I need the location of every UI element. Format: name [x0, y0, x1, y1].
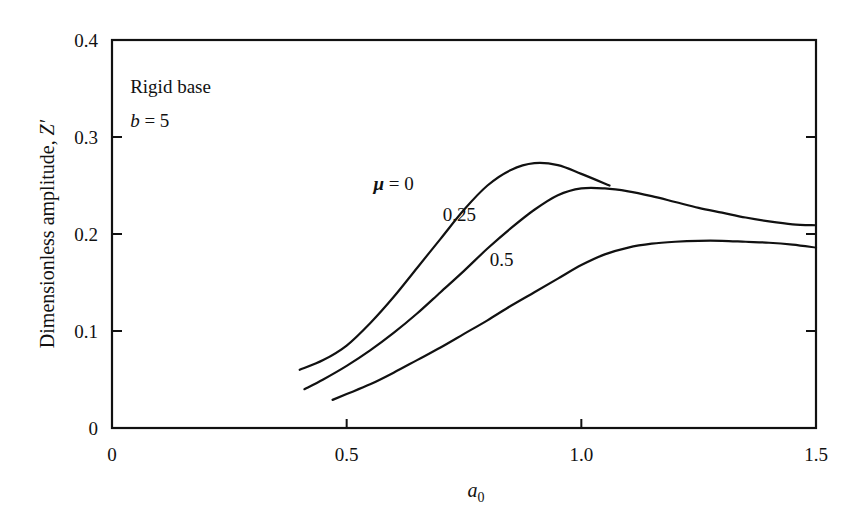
- annotations: Rigid baseb = 5: [130, 76, 211, 131]
- chart-canvas: 00.51.01.500.10.20.30.4 μ = 00.250.5 Rig…: [0, 0, 859, 515]
- plot-frame: [112, 40, 816, 428]
- y-tick-label: 0.3: [74, 127, 98, 148]
- plot-border: [112, 40, 816, 428]
- y-tick-label: 0.2: [74, 224, 98, 245]
- y-tick-label: 0.1: [74, 321, 98, 342]
- y-axis-title: Dimensionless amplitude, Z′: [36, 119, 59, 348]
- axis-ticks: [112, 137, 816, 428]
- annotation-rigid-base: Rigid base: [130, 76, 211, 97]
- data-curves: [300, 163, 816, 400]
- curve-0.5: [333, 241, 816, 400]
- x-tick-label: 0: [107, 444, 117, 465]
- annotation-b: b = 5: [130, 110, 169, 131]
- curve-label: 0.5: [490, 249, 514, 270]
- x-tick-label: 1.5: [804, 444, 828, 465]
- x-tick-label: 0.5: [335, 444, 359, 465]
- x-axis-title: a0: [468, 479, 485, 505]
- curve-labels: μ = 00.250.5: [372, 173, 513, 270]
- curve-label: 0.25: [443, 204, 476, 225]
- y-tick-label: 0.4: [74, 30, 98, 51]
- x-tick-label: 1.0: [569, 444, 593, 465]
- curve-label: μ = 0: [372, 173, 413, 194]
- curve-0.25: [304, 188, 816, 389]
- y-tick-label: 0: [89, 418, 99, 439]
